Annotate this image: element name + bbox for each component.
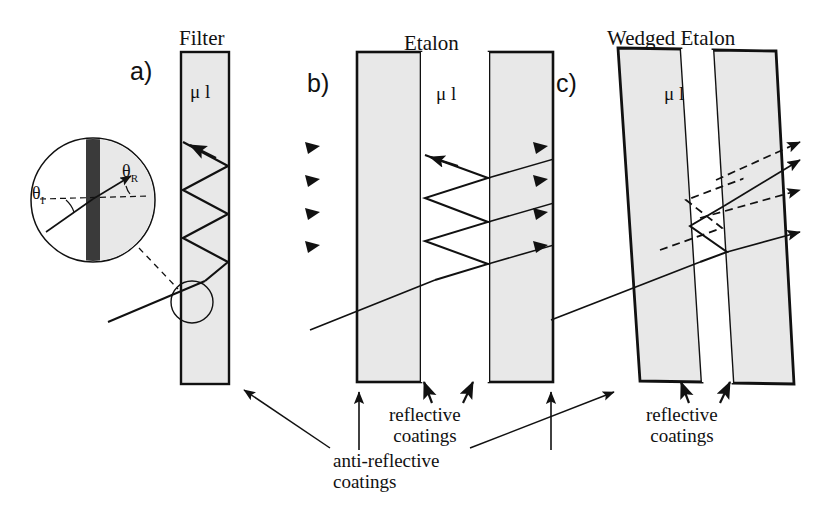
theta-reflected-sub: R [131, 172, 138, 184]
theta-incident-symbol: θ [32, 183, 41, 203]
reflective-caption-b-line1: reflective [389, 404, 461, 425]
reflective-pointer-c [681, 382, 730, 403]
reflective-caption-b: reflective coatings [389, 404, 461, 447]
leader-to-wedge [470, 392, 614, 448]
antireflective-caption: anti-reflective coatings [333, 450, 440, 493]
panel-b-title: Etalon [404, 31, 459, 56]
panel-a-label: a) [130, 57, 152, 86]
panel-b-medium-label: μ l [436, 83, 456, 105]
leader-to-filter [244, 390, 330, 448]
figure-canvas: Filter Etalon Wedged Etalon a) b) c) μ l… [0, 0, 818, 510]
reflective-caption-c: reflective coatings [646, 404, 718, 447]
panel-b-label: b) [307, 69, 329, 98]
theta-incident-label: θI [32, 183, 44, 206]
theta-reflected-label: θR [122, 161, 138, 184]
inset-substrate [93, 138, 155, 262]
reflective-caption-c-line2: coatings [646, 425, 718, 446]
incoming-beam-markers-b [305, 142, 320, 253]
reflective-caption-c-line1: reflective [646, 404, 718, 425]
inset-coating-layer [86, 138, 100, 262]
theta-incident-sub: I [41, 194, 45, 206]
inset-leader-dashed [139, 248, 178, 289]
panel-a-title: Filter [179, 26, 225, 51]
panel-c-label: c) [556, 69, 577, 98]
panel-c-title: Wedged Etalon [607, 26, 735, 51]
etalon-slab-left [357, 52, 421, 382]
panel-b-etalon [305, 52, 585, 450]
panel-c-medium-label: μ l [664, 83, 684, 105]
theta-reflected-symbol: θ [122, 161, 131, 181]
antireflective-caption-line1: anti-reflective [333, 450, 440, 471]
reflective-caption-b-line2: coatings [389, 425, 461, 446]
panel-a-medium-label: μ l [190, 81, 210, 103]
antireflective-caption-line2: coatings [333, 471, 440, 492]
reflective-pointer-b [424, 382, 473, 403]
etalon-slab-right [489, 52, 553, 382]
